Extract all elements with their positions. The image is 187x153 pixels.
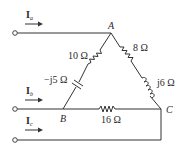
wire (150, 96, 161, 109)
terminal-c-circle (13, 138, 18, 143)
terminal-a-circle (13, 31, 18, 36)
delta-circuit-diagram: Ia Ib Ic A B C 10 Ω −j5 Ω 8 Ω j6 Ω 16 Ω (0, 0, 187, 153)
terminal-b (13, 107, 63, 112)
wire (100, 33, 111, 50)
wire-c-to-C (17, 109, 161, 140)
node-label-A: A (107, 20, 115, 31)
current-label-Ib: Ib (26, 85, 33, 97)
resistor-16-ohm-icon (99, 106, 115, 112)
arrow-Ib-icon (25, 98, 43, 103)
resistor-10-ohm-icon (88, 50, 102, 64)
circuit-svg: Ia Ib Ic A B C 10 Ω −j5 Ω 8 Ω j6 Ω 16 Ω (0, 0, 187, 153)
wire (79, 64, 88, 82)
terminal-b-circle (13, 107, 18, 112)
label-j6-ohm: j6 Ω (156, 77, 175, 88)
arrow-Ia-icon (25, 22, 43, 27)
current-label-Ic: Ic (26, 115, 33, 127)
branch-A-B (63, 33, 111, 109)
capacitor-icon (72, 80, 83, 89)
arrow-Ic-icon (25, 128, 43, 133)
label-8-ohm: 8 Ω (133, 42, 148, 53)
branch-B-C (63, 106, 161, 112)
label-16-ohm: 16 Ω (101, 114, 121, 125)
wire (131, 61, 142, 78)
terminal-a (13, 31, 111, 36)
label-10-ohm: 10 Ω (68, 50, 88, 61)
node-label-B: B (60, 113, 66, 124)
wire (63, 87, 76, 109)
resistor-8-ohm-icon (120, 47, 133, 61)
inductor-icon (142, 77, 154, 98)
label-neg-j5-ohm: −j5 Ω (44, 74, 67, 85)
current-label-Ia: Ia (26, 9, 33, 21)
wire (111, 33, 120, 47)
node-label-C: C (166, 104, 173, 115)
terminal-c (13, 109, 161, 142)
